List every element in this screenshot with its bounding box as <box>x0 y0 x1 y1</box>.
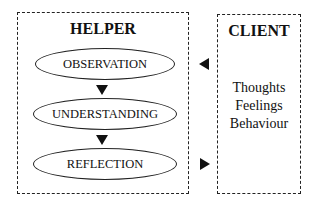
helper-title: HELPER <box>17 20 189 38</box>
stage-label: OBSERVATION <box>63 57 147 72</box>
stage-understanding: UNDERSTANDING <box>33 98 177 130</box>
stage-label: REFLECTION <box>67 157 143 172</box>
arrow-left-icon <box>199 58 209 70</box>
client-title: CLIENT <box>217 22 301 40</box>
arrow-down-icon <box>96 135 108 145</box>
client-item-behaviour: Behaviour <box>217 115 301 133</box>
client-item-thoughts: Thoughts <box>217 79 301 97</box>
client-items: Thoughts Feelings Behaviour <box>217 79 301 133</box>
stage-label: UNDERSTANDING <box>52 107 158 122</box>
stage-observation: OBSERVATION <box>35 48 175 80</box>
stage-reflection: REFLECTION <box>33 148 177 180</box>
client-item-feelings: Feelings <box>217 97 301 115</box>
arrow-right-icon <box>200 158 210 170</box>
arrow-down-icon <box>96 85 108 95</box>
